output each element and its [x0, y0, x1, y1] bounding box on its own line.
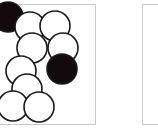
- circle-diagram: [0, 0, 158, 136]
- black-circle: [47, 54, 77, 84]
- white-circle: [24, 92, 54, 122]
